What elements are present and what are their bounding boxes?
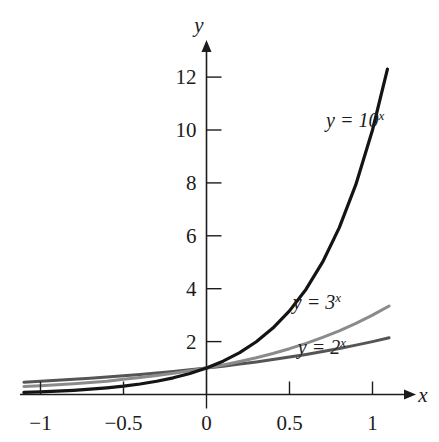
chart-canvas: −1−0.500.51 24681012 y x y = 10xy = 3xy … (0, 0, 439, 442)
y-tick-label: 6 (186, 224, 197, 248)
x-tick-label: 0 (201, 411, 212, 435)
x-tick-label: 0.5 (276, 411, 302, 435)
y-tick-label: 12 (176, 65, 197, 89)
y-tick-label: 2 (186, 330, 197, 354)
y-tick-label: 10 (176, 118, 197, 142)
label-3x: y = 3x (291, 290, 341, 314)
exponential-functions-figure: −1−0.500.51 24681012 y x y = 10xy = 3xy … (0, 0, 439, 442)
x-tick-label: −1 (29, 411, 51, 435)
y-tick-label: 4 (186, 277, 197, 301)
y-tick-label: 8 (186, 171, 197, 195)
label-10x: y = 10x (324, 108, 384, 132)
x-tick-label: 1 (367, 411, 378, 435)
x-axis-label: x (417, 383, 428, 407)
chart-background (0, 0, 439, 442)
label-2x: y = 2x (296, 335, 346, 359)
y-axis-label: y (192, 13, 204, 37)
x-tick-label: −0.5 (104, 411, 142, 435)
